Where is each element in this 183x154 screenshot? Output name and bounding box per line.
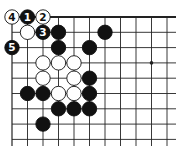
- move-number: 2: [39, 11, 46, 23]
- white-stone: [36, 71, 50, 85]
- white-stone: [51, 56, 65, 70]
- black-stone-move-3: 3: [36, 25, 50, 39]
- black-stone: [51, 25, 65, 39]
- black-stone: [82, 40, 96, 54]
- black-stone: [51, 102, 65, 116]
- white-stone: [51, 86, 65, 100]
- hoshi-points: [150, 61, 154, 65]
- move-number: 1: [24, 11, 31, 23]
- white-stone: [67, 71, 81, 85]
- hoshi-point: [150, 61, 154, 65]
- black-stone: [98, 25, 112, 39]
- black-stone: [36, 86, 50, 100]
- white-stone: [67, 86, 81, 100]
- white-stone-move-4: 4: [5, 10, 19, 24]
- black-stone: [82, 102, 96, 116]
- black-stone: [67, 102, 81, 116]
- move-number: 3: [39, 26, 46, 38]
- black-stone: [82, 86, 96, 100]
- white-stone-move-2: 2: [36, 10, 50, 24]
- white-stone: [36, 56, 50, 70]
- move-number: 4: [8, 11, 15, 23]
- black-stone: [82, 71, 96, 85]
- go-board: 41235: [0, 0, 183, 154]
- black-stone-move-1: 1: [20, 10, 34, 24]
- black-stone: [20, 86, 34, 100]
- black-stone-move-5: 5: [5, 40, 19, 54]
- move-number: 5: [8, 41, 15, 53]
- black-stone: [51, 40, 65, 54]
- black-stone: [36, 117, 50, 131]
- white-stone: [20, 25, 34, 39]
- white-stone: [67, 56, 81, 70]
